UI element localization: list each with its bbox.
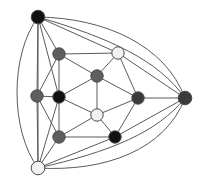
edge-m-tl-to-m-tr — [59, 53, 118, 54]
graph-node-inner-left[interactable] — [53, 91, 65, 103]
graph-node-outer-top-left[interactable] — [31, 10, 45, 24]
graph-node-mid-left[interactable] — [31, 90, 43, 102]
edge-m-right-to-i-top — [97, 76, 138, 98]
graph-node-mid-top-right[interactable] — [112, 47, 124, 59]
edge-o-bottom-to-m-br — [38, 137, 115, 168]
graph-node-outer-bottom-left[interactable] — [31, 161, 45, 175]
graph-node-mid-bottom-right[interactable] — [109, 131, 121, 143]
graph-node-outer-right[interactable] — [178, 91, 192, 105]
graph-canvas — [0, 0, 203, 188]
graph-node-mid-bottom-left[interactable] — [53, 131, 65, 143]
graph-node-inner-top[interactable] — [91, 70, 103, 82]
graph-node-inner-bottom[interactable] — [91, 109, 103, 121]
edge-o-top-to-m-tr — [38, 17, 118, 53]
graph-node-mid-right[interactable] — [132, 92, 144, 104]
node-layer — [31, 10, 192, 175]
edge-m-tl-to-m-left — [37, 54, 59, 96]
graph-diagram — [0, 0, 203, 188]
graph-node-mid-top-left[interactable] — [53, 48, 65, 60]
